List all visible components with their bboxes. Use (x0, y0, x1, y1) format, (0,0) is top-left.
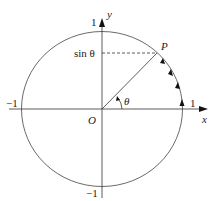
x-axis-label: x (202, 114, 207, 125)
circle-arrow-icon (168, 69, 173, 76)
point-p-label: P (161, 41, 168, 52)
y-axis-label: y (107, 9, 112, 20)
x-pos-one-label: 1 (190, 98, 196, 109)
radius-line (102, 53, 157, 109)
y-axis-arrow-icon (99, 18, 105, 27)
y-neg-one-label: −1 (86, 188, 98, 199)
unit-circle-diagram: y x O P θ sin θ 1 −1 1 −1 (0, 0, 215, 201)
y-pos-one-label: 1 (91, 17, 97, 28)
diagram-graphics (0, 0, 215, 201)
x-axis-arrow-icon (199, 106, 208, 112)
circle-arrow-icon (160, 58, 165, 64)
circle-arrow-icon (175, 82, 180, 89)
origin-label: O (88, 115, 96, 126)
theta-label: θ (124, 96, 129, 107)
circle-arrow-icon (180, 99, 185, 106)
sin-theta-label: sin θ (74, 48, 95, 59)
x-neg-one-label: −1 (6, 98, 18, 109)
